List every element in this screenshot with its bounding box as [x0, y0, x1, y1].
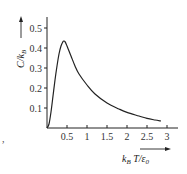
- svg-text:C/kB: C/kB: [15, 49, 28, 68]
- y-tick-label: 0.3: [30, 63, 43, 74]
- y-tick-label: 0.1: [30, 103, 43, 114]
- y-arrow-icon: [19, 16, 23, 38]
- x-tick-label: 1: [85, 131, 90, 142]
- y-tick-label: 0.4: [30, 43, 43, 54]
- y-tick-label: 0.2: [30, 83, 43, 94]
- x-tick-label: 2.5: [141, 131, 154, 142]
- data-curve: [47, 41, 161, 128]
- y-ticks: 0.10.20.30.40.5: [30, 23, 48, 114]
- x-tick-label: 2: [125, 131, 130, 142]
- x-tick-label: 1.5: [101, 131, 114, 142]
- y-tick-label: 0.5: [30, 23, 43, 34]
- x-axis-label: kB T/ε0: [122, 153, 150, 166]
- x-tick-label: 3: [165, 131, 170, 142]
- y-axis-label: C/kB: [15, 49, 28, 68]
- x-arrow-icon: [140, 147, 171, 151]
- punctuation-mark: ,: [2, 133, 5, 144]
- heat-capacity-chart: 0.10.20.30.40.5 0.511.522.53 C/kB kB T/ε…: [0, 0, 187, 174]
- x-tick-label: 0.5: [61, 131, 74, 142]
